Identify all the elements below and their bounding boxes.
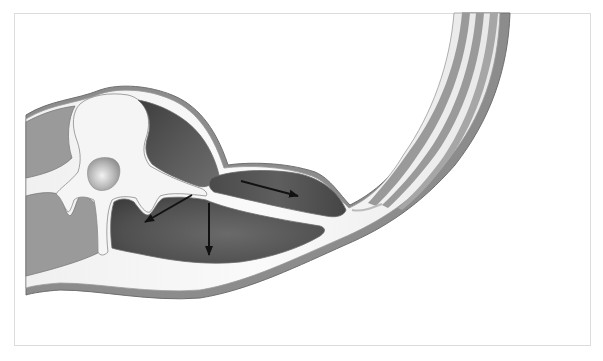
anatomy-illustration bbox=[0, 0, 603, 361]
